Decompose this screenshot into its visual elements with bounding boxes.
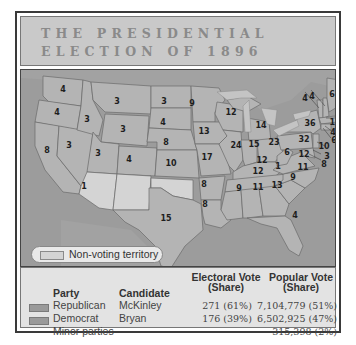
us-map: 4 4 8 3 3 3 3 3 4 3 4 8 10 15 9 13 17 8 … [20,69,336,267]
title-line-2: ELECTION OF 1896 [41,44,263,59]
label-ct: 6 [331,136,336,145]
label-ky-split: 1 [275,162,281,171]
label-mi: 14 [255,121,267,130]
label-ia: 13 [198,127,209,136]
label-or: 4 [54,108,60,117]
label-wv: 6 [284,148,290,157]
label-ny: 36 [304,119,316,128]
label-nd: 3 [161,97,167,106]
row-democrat-party: Democrat [53,312,99,324]
label-nc: 11 [297,163,309,172]
state-ms [221,190,243,220]
label-mo: 17 [201,153,212,162]
label-vt: 4 [302,94,308,103]
results-table: Party Candidate Electoral Vote (Share) P… [20,267,336,328]
label-wi: 12 [225,108,236,117]
label-ut: 3 [95,149,101,158]
label-ga: 13 [271,181,282,190]
label-la: 8 [202,200,208,209]
label-co: 4 [126,155,132,164]
label-mn: 9 [189,99,195,108]
header-popular: Popular Vote (Share) [261,272,341,292]
label-wa: 4 [60,85,66,94]
label-ks: 10 [165,159,177,168]
label-wy: 3 [120,125,126,134]
democrat-swatch [29,317,49,325]
state-sd [149,108,191,130]
label-id: 3 [84,115,90,124]
header-electoral-line2: (Share) [181,282,271,292]
label-tx: 15 [160,214,172,223]
label-me: 6 [329,90,335,99]
header-party: Party [53,288,79,298]
us-map-svg: 4 4 8 3 3 3 3 3 4 3 4 8 10 15 9 13 17 8 … [21,70,336,267]
row-democrat-popular: 6,502,925 (47%) [241,313,337,324]
label-il: 24 [230,141,242,150]
label-nv: 3 [66,141,72,150]
label-sd: 4 [160,118,166,127]
row-democrat-candidate: Bryan [119,312,146,324]
map-legend: Non-voting territory [31,246,163,263]
label-fl: 4 [292,211,298,220]
row-republican-party: Republican [53,299,106,311]
republican-swatch [29,304,49,312]
header-electoral: Electoral Vote (Share) [181,272,271,292]
territory-nm [113,174,151,210]
label-ar: 8 [201,180,207,189]
label-sc: 9 [290,173,296,182]
title-line-1: THE PRESIDENTIAL [41,26,269,41]
label-tn: 12 [252,167,263,176]
title-banner: THE PRESIDENTIAL ELECTION OF 1896 [20,16,336,66]
label-ca-split: 1 [81,182,87,191]
header-popular-line2: (Share) [261,282,341,292]
label-nh: 4 [309,92,315,101]
row-republican-popular: 7,104,779 (51%) [241,300,337,311]
label-ne: 8 [163,138,169,147]
label-nj: 10 [318,142,330,151]
row-minor-popular: 315,398 (2%) [241,326,337,337]
election-map-figure: THE PRESIDENTIAL ELECTION OF 1896 [15,11,341,333]
non-voting-label: Non-voting territory [69,248,158,260]
label-ky: 12 [256,156,267,165]
row-republican-candidate: McKinley [119,299,162,311]
label-in: 15 [248,140,260,149]
state-ks [155,150,199,178]
label-ms: 9 [236,184,242,193]
label-pa: 32 [298,135,309,144]
non-voting-swatch [40,251,64,260]
label-oh: 23 [268,138,279,147]
label-ca: 8 [44,146,50,155]
label-al: 11 [252,183,264,192]
label-va: 12 [298,150,309,159]
state-nd [151,86,191,108]
label-ma: 15 [329,118,336,127]
header-candidate: Candidate [119,288,170,298]
state-co [117,146,157,176]
label-mt: 3 [114,97,120,106]
label-md: 8 [321,160,327,169]
row-minor-party: Minor parties [53,325,114,337]
